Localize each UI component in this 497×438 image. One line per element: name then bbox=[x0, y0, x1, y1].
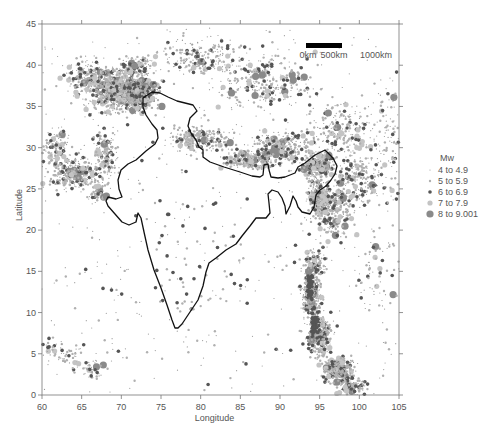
x-tick-label: 85 bbox=[235, 402, 245, 412]
y-tick-label: 0 bbox=[31, 390, 36, 400]
y-axis-title: Latitude bbox=[14, 189, 24, 221]
legend-item-label: 4 to 4.9 bbox=[438, 165, 468, 175]
y-tick-label: 5 bbox=[31, 349, 36, 359]
legend-title: Mw bbox=[440, 153, 454, 163]
x-tick-label: 65 bbox=[77, 402, 87, 412]
legend-marker bbox=[428, 190, 432, 194]
legend-marker bbox=[429, 169, 430, 170]
legend-marker bbox=[426, 210, 433, 217]
legend-item-label: 7 to 7.9 bbox=[438, 198, 468, 208]
y-tick-label: 35 bbox=[26, 101, 36, 111]
y-tick-label: 40 bbox=[26, 60, 36, 70]
india-border-outline bbox=[106, 92, 337, 328]
y-tick-label: 25 bbox=[26, 184, 36, 194]
x-tick-label: 105 bbox=[391, 402, 406, 412]
legend-marker bbox=[429, 180, 431, 182]
x-tick-label: 80 bbox=[196, 402, 206, 412]
scale-bar: 0km500km1000km bbox=[299, 43, 392, 60]
legend-item-label: 5 to 5.9 bbox=[438, 176, 468, 186]
y-tick-label: 20 bbox=[26, 225, 36, 235]
y-tick-label: 30 bbox=[26, 143, 36, 153]
legend-marker bbox=[427, 200, 432, 205]
legend-item-label: 6 to 6.9 bbox=[438, 187, 468, 197]
x-tick-label: 90 bbox=[275, 402, 285, 412]
x-tick-label: 75 bbox=[156, 402, 166, 412]
y-tick-label: 15 bbox=[26, 266, 36, 276]
epicenter-points bbox=[40, 27, 400, 396]
y-tick-label: 10 bbox=[26, 308, 36, 318]
x-tick-label: 100 bbox=[352, 402, 367, 412]
magnitude-legend: Mw4 to 4.95 to 5.96 to 6.97 to 7.98 to 9… bbox=[426, 153, 478, 219]
legend-item-label: 8 to 9.001 bbox=[438, 209, 478, 219]
x-tick-label: 70 bbox=[116, 402, 126, 412]
scale-bar-label: 500km bbox=[320, 50, 347, 60]
x-tick-label: 95 bbox=[315, 402, 325, 412]
scale-bar-label: 1000km bbox=[360, 50, 392, 60]
x-axis-title: Longitude bbox=[195, 413, 235, 423]
x-tick-label: 60 bbox=[37, 402, 47, 412]
earthquake-map: 6065707580859095100105051015202530354045… bbox=[0, 0, 497, 438]
y-tick-label: 45 bbox=[26, 19, 36, 29]
scale-bar-label: 0km bbox=[299, 50, 316, 60]
